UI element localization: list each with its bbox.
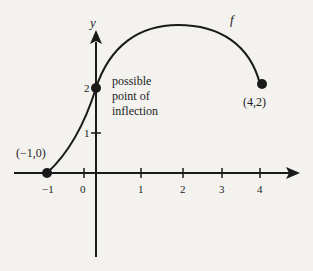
function-graph: −1 0 1 2 3 4 y 1 2 f (−1,0) (4,2) possib… bbox=[0, 0, 313, 271]
x-tick-label: 2 bbox=[180, 183, 186, 195]
x-axis: −1 0 1 2 3 4 bbox=[14, 167, 300, 195]
x-tick-label: 4 bbox=[257, 183, 263, 195]
y-axis: y 1 2 bbox=[84, 15, 102, 257]
function-curve bbox=[47, 25, 260, 173]
annotation-line: point of bbox=[112, 89, 150, 103]
function-label: f bbox=[230, 12, 236, 27]
inflection-annotation: possible point of inflection bbox=[112, 74, 158, 118]
endpoint-right bbox=[257, 79, 267, 89]
x-tick-label: 1 bbox=[138, 183, 144, 195]
x-tick-label: 0 bbox=[80, 183, 86, 195]
endpoint-left bbox=[42, 168, 52, 178]
y-tick-label: 1 bbox=[84, 127, 90, 139]
left-endpoint-label: (−1,0) bbox=[16, 146, 46, 160]
annotation-line: inflection bbox=[112, 104, 158, 118]
y-axis-label: y bbox=[88, 15, 96, 30]
x-tick-label: −1 bbox=[42, 183, 54, 195]
right-endpoint-label: (4,2) bbox=[243, 95, 266, 109]
x-tick-label: 3 bbox=[219, 183, 225, 195]
inflection-point bbox=[91, 83, 101, 93]
annotation-line: possible bbox=[112, 74, 151, 88]
y-axis-arrow-icon bbox=[90, 30, 102, 44]
y-tick-label: 2 bbox=[84, 82, 90, 94]
